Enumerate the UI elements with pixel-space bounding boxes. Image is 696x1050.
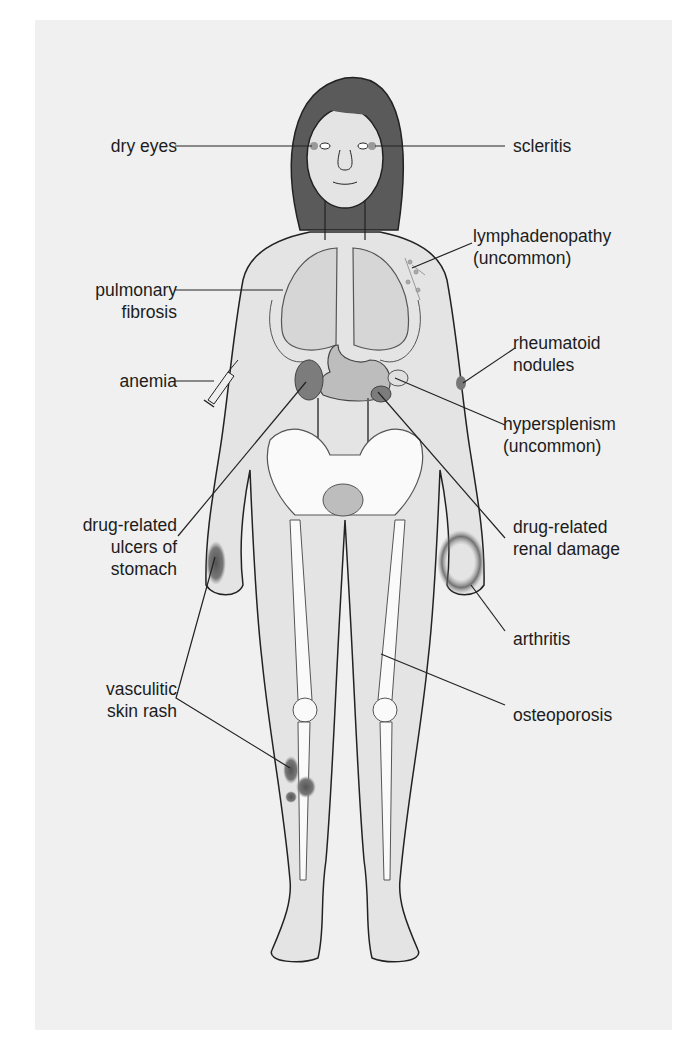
body-outline [206,232,484,962]
label-drug-related-ulcers: drug-related ulcers of stomach [45,514,177,580]
label-lymphadenopathy: lymphadenopathy (uncommon) [473,225,611,269]
spleen [388,370,408,386]
label-hypersplenism: hypersplenism (uncommon) [503,413,616,457]
rash-shin-1 [283,756,299,784]
label-anemia: anemia [45,370,177,392]
left-kidney [371,386,391,402]
label-dry-eyes: dry eyes [45,135,177,157]
rash-shin-3 [285,791,297,803]
label-rheumatoid-nodules: rheumatoid nodules [513,332,601,376]
rash-shin-2 [296,776,316,798]
label-drug-related-renal-damage: drug-related renal damage [513,516,620,560]
label-arthritis: arthritis [513,628,570,650]
label-pulmonary-fibrosis: pulmonary fibrosis [45,279,177,323]
bladder [323,484,363,516]
label-vasculitic-skin-rash: vasculitic skin rash [45,678,177,722]
scleritis-marker [368,142,376,150]
right-kidney [295,360,323,400]
label-osteoporosis: osteoporosis [513,704,612,726]
diagram-panel: dry eyes pulmonary fibrosis anemia drug-… [35,20,672,1030]
label-scleritis: scleritis [513,135,571,157]
rheumatoid-nodule [456,376,466,390]
arthritis-hand [437,530,485,594]
face [307,108,383,208]
